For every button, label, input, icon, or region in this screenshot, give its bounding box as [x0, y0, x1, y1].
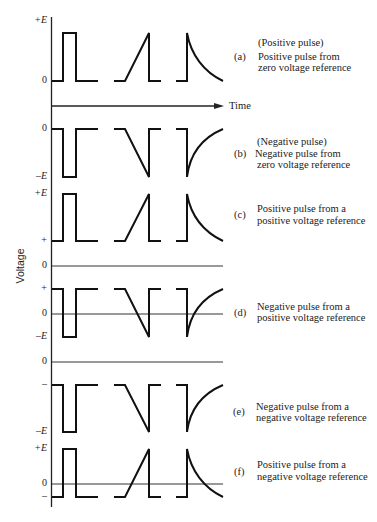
row-letter: (c): [234, 209, 246, 221]
tick-label: 0: [42, 74, 47, 85]
tick-label: +: [41, 282, 47, 293]
exponential-spike: [176, 129, 223, 177]
sawtooth-ramp: [114, 289, 161, 337]
sawtooth-ramp: [114, 33, 161, 81]
pulse-waveform-diagram: Voltage Time +E 0 (Positive pulse) (a) P…: [0, 0, 377, 522]
row-letter: (d): [234, 307, 247, 319]
exponential-spike: [176, 449, 223, 497]
tick-label: 0: [42, 355, 47, 366]
row-caption-line: negative voltage reference: [257, 471, 368, 482]
rectangular-pulse: [52, 385, 98, 432]
row-heading: (Positive pulse): [258, 37, 324, 49]
rectangular-pulse: [52, 33, 98, 81]
exponential-spike: [176, 33, 223, 81]
row-e: 0 – –E (e) Negative pulse from a negativ…: [35, 355, 367, 436]
row-caption-line: Negative pulse from: [255, 148, 341, 159]
tick-label: +: [41, 234, 47, 245]
tick-label: +E: [34, 14, 47, 25]
rectangular-pulse: [52, 129, 98, 177]
row-letter: (a): [234, 51, 246, 63]
row-letter: (f): [234, 466, 245, 478]
sawtooth-ramp: [114, 194, 161, 241]
row-caption-line: positive voltage reference: [257, 215, 366, 226]
sawtooth-ramp: [114, 449, 161, 497]
row-a: +E 0 (Positive pulse) (a) Positive pulse…: [34, 14, 351, 85]
tick-label: –: [41, 378, 48, 389]
tick-label: –E: [35, 170, 47, 181]
exponential-spike: [176, 289, 223, 337]
row-letter: (e): [233, 406, 245, 418]
voltage-axis-label: Voltage: [14, 248, 26, 283]
row-caption-line: Positive pulse from: [258, 51, 340, 62]
sawtooth-ramp: [114, 129, 161, 177]
row-f: +E 0 – (f) Positive pulse from a negativ…: [34, 442, 368, 501]
time-axis-label: Time: [229, 100, 251, 111]
tick-label: 0: [42, 122, 47, 133]
tick-label: +E: [34, 442, 47, 453]
tick-label: 0: [42, 307, 47, 318]
time-axis-arrow-icon: [214, 103, 224, 109]
row-letter: (b): [234, 148, 247, 160]
tick-label: –: [41, 490, 48, 501]
row-caption-line: positive voltage reference: [257, 312, 366, 323]
rectangular-pulse: [52, 289, 98, 337]
tick-label: –E: [35, 425, 47, 436]
tick-label: 0: [42, 259, 47, 270]
rectangular-pulse: [52, 194, 98, 241]
rectangular-pulse: [52, 449, 98, 497]
row-caption-line: zero voltage reference: [257, 159, 351, 170]
row-caption-line: Negative pulse from a: [256, 401, 349, 412]
tick-label: –E: [35, 330, 47, 341]
row-b: 0 –E (Negative pulse) (b) Negative pulse…: [35, 122, 351, 181]
tick-label: +E: [34, 187, 47, 198]
tick-label: 0: [42, 477, 47, 488]
row-caption-line: negative voltage reference: [256, 412, 367, 423]
row-caption-line: Positive pulse from a: [257, 203, 346, 214]
row-caption-line: Positive pulse from a: [257, 459, 346, 470]
row-caption-line: Negative pulse from a: [257, 301, 350, 312]
row-d: + 0 –E (d) Negative pulse from a positiv…: [35, 282, 366, 341]
row-caption-line: zero voltage reference: [258, 62, 352, 73]
sawtooth-ramp: [114, 385, 161, 432]
row-heading: (Negative pulse): [257, 136, 327, 148]
row-c: +E + 0 (c) Positive pulse from a positiv…: [34, 187, 366, 270]
exponential-spike: [176, 194, 223, 241]
exponential-spike: [176, 385, 223, 432]
